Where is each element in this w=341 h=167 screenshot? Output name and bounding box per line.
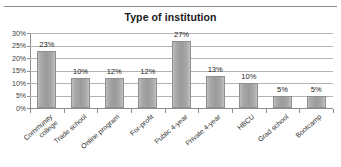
- bar-value-label: 12%: [131, 68, 165, 76]
- bar-value-label: 13%: [198, 66, 232, 74]
- x-axis-tick-mark: [64, 109, 65, 113]
- bar-value-label: 12%: [97, 68, 131, 76]
- bar-value-label: 23%: [30, 41, 64, 49]
- bar-value-label: 10%: [64, 68, 98, 76]
- x-axis-category-label: For-profit: [89, 113, 154, 167]
- x-axis-category-label: HBCU: [190, 113, 255, 167]
- x-axis-tick-mark: [299, 109, 300, 113]
- bar: [206, 76, 225, 109]
- y-axis-tick-label: 0%: [0, 105, 26, 112]
- y-axis-tick-label: 30%: [0, 30, 26, 37]
- x-axis-category-label: Public 4-year: [123, 113, 188, 167]
- x-axis-category-label: Grad school: [224, 113, 289, 167]
- bar-value-label: 10%: [232, 73, 266, 81]
- x-axis-tick-mark: [97, 109, 98, 113]
- chart-figure: Type of institution 30%25%20%15%10%5%0% …: [0, 0, 341, 167]
- bar-value-label: 5%: [299, 86, 333, 94]
- bar: [307, 96, 326, 109]
- chart-title: Type of institution: [0, 11, 341, 23]
- x-axis-category-label: Bootcamp: [258, 113, 323, 167]
- bar: [138, 78, 157, 108]
- bar-value-label: 5%: [266, 86, 300, 94]
- x-axis-tick-mark: [131, 109, 132, 113]
- x-axis-tick-mark: [165, 109, 166, 113]
- y-axis-tick-label: 10%: [0, 80, 26, 87]
- bar-value-label: 27%: [165, 31, 199, 39]
- bar: [37, 51, 56, 109]
- page-divider-rule: [4, 6, 337, 7]
- x-axis-tick-mark: [198, 109, 199, 113]
- y-axis-tick-label: 20%: [0, 55, 26, 62]
- x-axis-category-label: Online program: [56, 113, 121, 167]
- bar: [71, 78, 90, 108]
- x-axis-tick-mark: [232, 109, 233, 113]
- y-axis-tick-label: 15%: [0, 67, 26, 74]
- bar: [273, 96, 292, 109]
- bar: [105, 78, 124, 108]
- bar: [239, 83, 258, 108]
- x-axis-tick-mark: [266, 109, 267, 113]
- y-axis-tick-label: 25%: [0, 42, 26, 49]
- x-axis-line: [30, 108, 333, 109]
- x-axis-category-label: Private 4-year: [157, 113, 222, 167]
- bar: [172, 41, 191, 109]
- y-axis-tick-label: 5%: [0, 92, 26, 99]
- x-axis-tick-mark: [333, 109, 334, 113]
- x-axis-tick-mark: [30, 109, 31, 113]
